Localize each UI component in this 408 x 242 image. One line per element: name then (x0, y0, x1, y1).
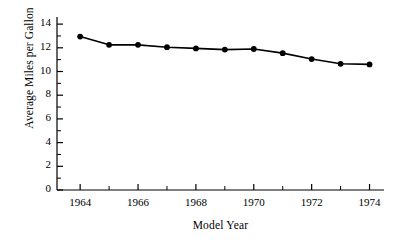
x-axis-tick-label: 1972 (292, 196, 332, 208)
y-axis-tick-label: 14 (25, 16, 51, 28)
y-axis-ticks (57, 24, 63, 190)
y-axis-tick-label: 6 (25, 111, 51, 123)
axes (57, 17, 384, 190)
x-axis-tick-label: 1966 (118, 196, 158, 208)
data-point-marker (193, 46, 199, 52)
chart-container: Average Miles per Gallon Model Year 0246… (0, 0, 408, 242)
y-axis-tick-label: 2 (25, 158, 51, 170)
data-point-marker (280, 50, 286, 56)
y-axis-tick-label: 0 (25, 182, 51, 194)
data-point-marker (338, 61, 344, 67)
data-point-marker (135, 42, 141, 48)
x-axis-tick-label: 1974 (350, 196, 390, 208)
x-axis-tick-label: 1970 (234, 196, 274, 208)
y-axis-tick-label: 10 (25, 64, 51, 76)
data-point-marker (106, 42, 112, 48)
y-axis-tick-label: 8 (25, 87, 51, 99)
x-axis-ticks (80, 184, 369, 190)
data-point-marker (367, 62, 373, 68)
data-point-marker (77, 34, 83, 40)
data-point-marker (164, 44, 170, 50)
data-point-marker (309, 56, 315, 62)
y-axis-tick-label: 4 (25, 135, 51, 147)
y-axis-tick-label: 12 (25, 40, 51, 52)
x-axis-tick-label: 1968 (176, 196, 216, 208)
data-point-marker (222, 47, 228, 53)
data-point-marker (251, 46, 257, 52)
x-axis-tick-label: 1964 (60, 196, 100, 208)
